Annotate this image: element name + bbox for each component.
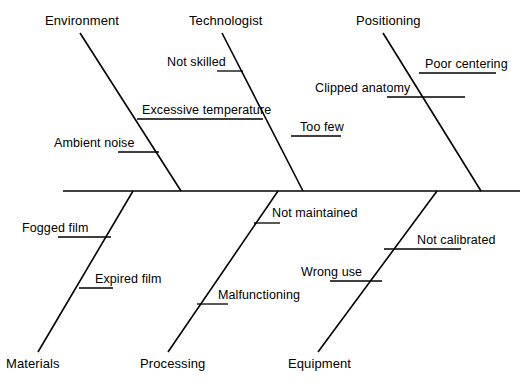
cause-label-not-skilled: Not skilled — [167, 55, 226, 69]
cause-label-too-few: Too few — [300, 120, 344, 134]
category-bone-processing — [168, 191, 278, 352]
cause-label-wrong-use: Wrong use — [301, 265, 362, 279]
cause-label-poor-centering: Poor centering — [425, 57, 508, 71]
cause-label-expired-film: Expired film — [95, 272, 162, 286]
fishbone-diagram: EnvironmentExcessive temperatureAmbient … — [0, 0, 524, 388]
cause-label-malfunctioning: Malfunctioning — [218, 288, 300, 302]
category-label-processing: Processing — [140, 357, 205, 371]
category-label-positioning: Positioning — [356, 14, 421, 28]
category-label-materials: Materials — [6, 357, 60, 371]
cause-label-ambient-noise: Ambient noise — [54, 136, 135, 150]
cause-label-clipped-anatomy: Clipped anatomy — [315, 81, 410, 95]
cause-label-not-maintained: Not maintained — [272, 206, 357, 220]
category-label-technologist: Technologist — [189, 14, 262, 28]
category-label-environment: Environment — [45, 14, 119, 28]
cause-label-not-calibrated: Not calibrated — [417, 233, 496, 247]
category-label-equipment: Equipment — [288, 357, 351, 371]
cause-label-fogged-film: Fogged film — [22, 221, 88, 235]
cause-label-excessive-temperature: Excessive temperature — [142, 103, 271, 117]
